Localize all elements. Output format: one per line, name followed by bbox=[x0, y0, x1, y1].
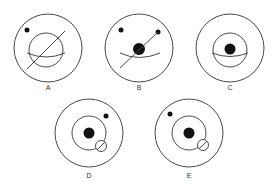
diagonal-line bbox=[27, 31, 65, 69]
figure-c: C bbox=[196, 14, 264, 91]
figure-b: B bbox=[105, 14, 173, 91]
curved-arc bbox=[27, 53, 65, 57]
small-dot bbox=[25, 28, 30, 33]
small-dot-left bbox=[119, 28, 124, 33]
figure-e: E bbox=[155, 99, 223, 179]
figure-a: A bbox=[14, 14, 82, 91]
large-dot bbox=[84, 128, 95, 139]
figure-d: D bbox=[55, 99, 123, 179]
diagram-canvas: A B C D E bbox=[0, 0, 278, 187]
figure-label-c: C bbox=[227, 84, 232, 91]
small-dot bbox=[104, 114, 109, 119]
figure-label-b: B bbox=[137, 84, 142, 91]
small-dot bbox=[168, 112, 173, 117]
figure-label-e: E bbox=[187, 172, 192, 179]
large-dot bbox=[225, 44, 236, 55]
large-dot bbox=[133, 43, 145, 55]
figure-label-a: A bbox=[46, 84, 51, 91]
large-dot bbox=[184, 128, 195, 139]
figure-label-d: D bbox=[86, 172, 91, 179]
diagonal-line bbox=[120, 32, 158, 68]
